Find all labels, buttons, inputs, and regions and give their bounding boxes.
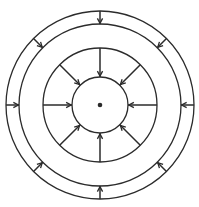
spoke-arrow <box>97 133 102 162</box>
spoke-arrow <box>120 125 141 146</box>
spoke-arrow <box>43 102 72 107</box>
concentric-diagram <box>0 0 199 207</box>
spoke-arrow <box>60 125 81 146</box>
spoke-arrow <box>128 102 157 107</box>
outer-ring-arrow <box>181 102 194 107</box>
outer-ring-arrow <box>34 162 43 171</box>
outer-ring-arrow <box>157 39 166 48</box>
center-dot <box>98 103 103 108</box>
outer-ring-arrow <box>34 39 43 48</box>
outer-ring-arrow <box>97 11 102 24</box>
spoke-arrow <box>120 65 141 86</box>
spoke-arrow <box>60 65 81 86</box>
outer-ring-arrow <box>157 162 166 171</box>
outer-ring-arrow <box>97 186 102 199</box>
outer-ring-arrow <box>6 102 19 107</box>
spoke-arrow <box>97 48 102 77</box>
